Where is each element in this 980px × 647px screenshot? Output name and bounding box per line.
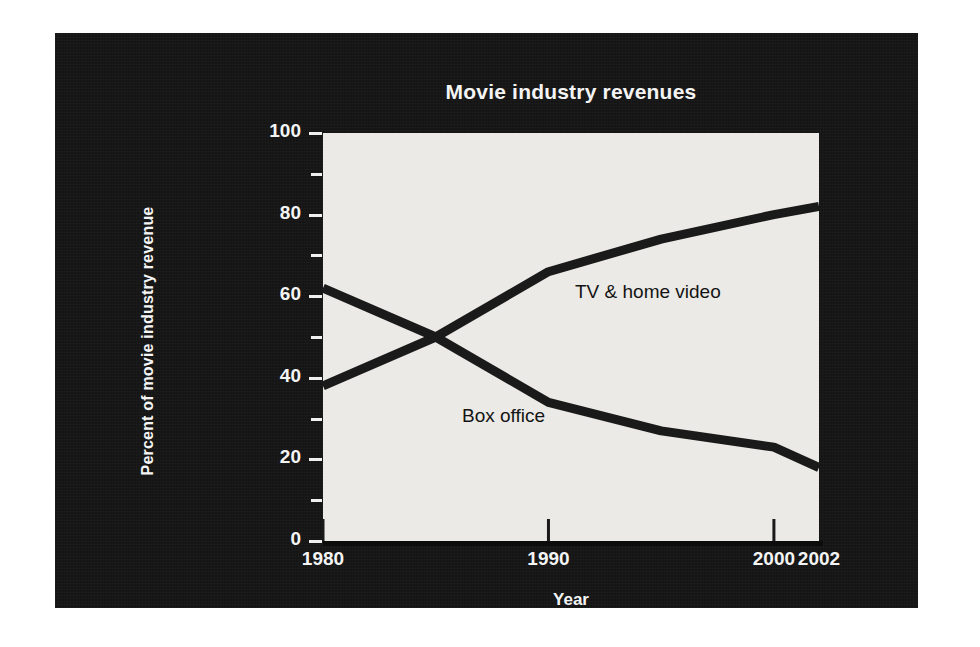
- x-axis-tick-marks: [323, 519, 774, 541]
- x-axis-tick-label: 1990: [527, 548, 569, 570]
- series-line-tv-home-video: [323, 206, 819, 386]
- x-axis-tick-label: 2000: [753, 548, 795, 570]
- y-axis-minor-tick-mark: [311, 254, 322, 257]
- chart-title: Movie industry revenues: [323, 80, 819, 104]
- y-axis-title: Percent of movie industry revenue: [139, 131, 157, 551]
- y-axis-minor-tick-mark: [311, 499, 322, 502]
- series-annotation-box-office: Box office: [462, 405, 545, 427]
- plot-area: TV & home video Box office: [323, 133, 819, 541]
- x-axis-tick-label: 1980: [302, 548, 344, 570]
- page-root: Movie industry revenues Percent of movie…: [0, 0, 980, 647]
- y-axis-tick-mark: [309, 377, 322, 380]
- y-axis-tick-mark: [309, 540, 322, 543]
- figure-panel: Movie industry revenues Percent of movie…: [55, 33, 918, 608]
- x-axis-title: Year: [323, 590, 819, 608]
- plot-bottom-shadow: [323, 541, 823, 546]
- y-axis-tick-label: 60: [241, 283, 301, 305]
- y-axis-tick-label: 80: [241, 202, 301, 224]
- x-axis-tick-label: 2002: [798, 548, 840, 570]
- y-axis-tick-label: 40: [241, 365, 301, 387]
- y-axis-tick-mark: [309, 458, 322, 461]
- y-axis-minor-tick-mark: [311, 336, 322, 339]
- series-annotation-tv-home-video: TV & home video: [575, 281, 721, 303]
- y-axis-minor-tick-mark: [311, 418, 322, 421]
- y-axis-tick-label: 20: [241, 446, 301, 468]
- series-layer: [323, 206, 819, 467]
- y-axis-tick-mark: [309, 132, 322, 135]
- y-axis-tick-mark: [309, 295, 322, 298]
- plot-svg: [323, 133, 819, 541]
- y-axis-tick-labels: 020406080100: [241, 133, 301, 541]
- y-axis-tick-mark: [309, 214, 322, 217]
- series-line-box-office: [323, 288, 819, 468]
- y-axis-tick-label: 0: [241, 528, 301, 550]
- y-axis-minor-tick-mark: [311, 173, 322, 176]
- y-axis-tick-label: 100: [241, 120, 301, 142]
